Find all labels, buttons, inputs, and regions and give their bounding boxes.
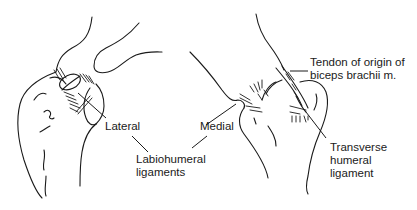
label-transverse-line3: ligament	[330, 167, 373, 180]
right-shoulder-drawing	[190, 14, 328, 194]
shoulder-ligament-diagram: Lateral Medial Labiohumeral ligaments Te…	[0, 0, 417, 210]
label-labiohumeral-line2: ligaments	[136, 166, 185, 179]
label-medial: Medial	[200, 120, 234, 133]
label-tendon-line1: Tendon of origin of	[310, 56, 405, 69]
label-transverse-line1: Transverse	[330, 141, 387, 154]
leader-labio-right	[192, 136, 207, 148]
label-lateral: Lateral	[105, 120, 140, 133]
label-tendon-line2: biceps brachii m.	[310, 69, 396, 82]
label-labiohumeral-line1: Labiohumeral	[136, 153, 206, 166]
label-transverse-line2: humeral	[330, 154, 372, 167]
leader-labio-left	[132, 136, 148, 152]
